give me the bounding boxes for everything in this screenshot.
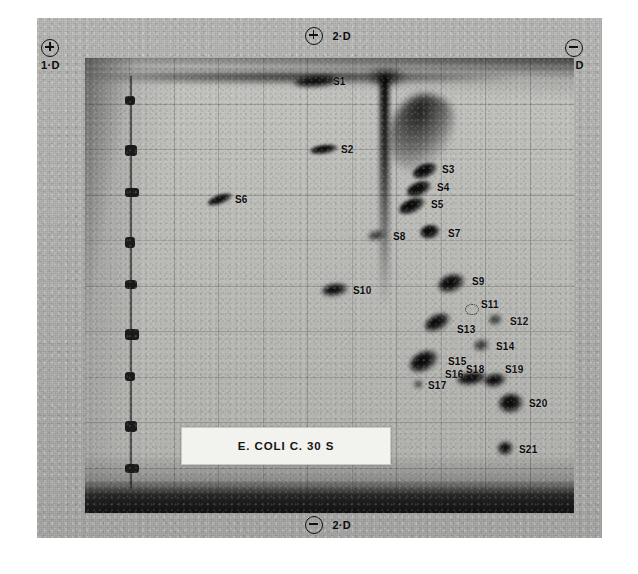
spot-label-s12: S12 [510,316,528,327]
reference-lane-mark [125,464,139,473]
gridline-horizontal [85,422,574,423]
reference-lane-mark [125,372,135,381]
spot-label-s21: S21 [519,444,537,455]
gridline-vertical [174,58,175,513]
reference-lane-mark [125,145,137,156]
spot-label-s1: S1 [333,76,346,87]
spot-label-s4: S4 [437,182,450,193]
circled-plus-icon [305,27,323,45]
spot-label-s15: S15 [448,356,466,367]
circled-plus-icon [41,39,59,57]
protein-spot-s6 [206,190,234,207]
protein-spot-s13 [422,309,453,334]
spot-label-s6: S6 [235,194,248,205]
spot-label-s11: S11 [481,299,499,310]
spot-label-s5: S5 [431,199,444,210]
reference-lane-mark [125,96,135,105]
protein-spot-s17 [414,381,423,388]
reference-lane-mark [125,188,139,197]
protein-spot-s19 [483,372,507,389]
spot-label-s20: S20 [529,398,547,409]
gel-plate: S1S2S3S4S5S6S7S8S9S10S11S12S13S14S15S16S… [85,58,574,513]
sample-caption-label: E. COLI C. 30 S [181,427,391,465]
protein-spot-s10 [321,282,348,298]
polarity-marker-top-center: 2·D [305,26,351,45]
polarity-dimension-top-left: 1·D [41,59,60,71]
spot-label-s2: S2 [341,144,354,155]
gridline-horizontal [85,240,574,241]
spot-label-s10: S10 [353,285,371,296]
reference-lane-mark [125,237,135,248]
protein-spot-s9 [436,271,467,296]
protein-spot-s5 [396,194,427,218]
gridline-horizontal [85,331,574,332]
spot-label-s18: S18 [466,364,484,375]
spot-label-s7: S7 [448,228,461,239]
spot-label-s14: S14 [496,341,514,352]
circled-minus-icon [565,39,583,57]
gridline-horizontal [85,468,574,469]
spot-label-s13: S13 [457,324,475,335]
reference-lane-mark [125,280,137,289]
reference-lane-mark [125,421,137,432]
gridline-vertical [485,58,486,513]
spot-label-s17: S17 [428,380,446,391]
protein-spot-s15 [406,346,441,377]
circled-minus-icon [305,516,323,534]
protein-spot-s21 [497,441,514,456]
protein-spot-s2 [310,143,339,156]
gridline-horizontal [85,195,574,196]
protein-spot-s7 [419,223,441,240]
spot-label-s19: S19 [505,364,523,375]
reference-lane-mark [125,329,139,340]
figure-root: 1·D 2·D 1·D 2·D S1S2S3S4S5S6S7S8S9S10S11… [0,0,638,574]
polarity-marker-top-left: 1·D [41,38,60,71]
protein-spot-s12 [488,314,503,326]
spot-label-s3: S3 [442,164,455,175]
polarity-dimension-bottom-center: 2·D [332,519,351,531]
polarity-dimension-top-center: 2·D [332,30,351,42]
spot-label-s9: S9 [472,276,485,287]
gridline-horizontal [85,104,574,105]
protein-spot-s11-ghost-ring [465,304,479,315]
protein-spot-s14 [473,338,490,351]
polarity-marker-bottom-center: 2·D [305,515,351,534]
protein-spot-s20 [498,392,524,413]
caption-text: E. COLI C. 30 S [238,440,335,452]
origin-streak-vertical [380,76,389,306]
spot-label-s8: S8 [393,231,406,242]
photograph-mount: 1·D 2·D 1·D 2·D S1S2S3S4S5S6S7S8S9S10S11… [37,18,602,538]
